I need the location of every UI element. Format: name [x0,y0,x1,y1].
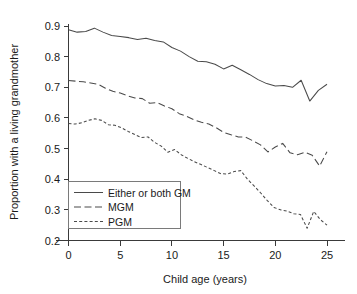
y-tick-label: 0.9 [45,20,60,32]
x-axis-ticks: 0510152025 [65,241,333,262]
y-axis-ticks: 0.20.30.40.50.60.70.80.9 [45,20,69,247]
chart-figure: 0.20.30.40.50.60.70.80.9 0510152025 Prop… [0,0,357,294]
y-tick-label: 0.5 [45,143,60,155]
y-axis-title: Proportion with a living grandmother [8,44,20,220]
y-tick-label: 0.3 [45,204,60,216]
y-tick-label: 0.7 [45,81,60,93]
x-tick-label: 10 [166,249,178,261]
x-tick-label: 25 [321,249,333,261]
y-tick-label: 0.6 [45,112,60,124]
legend-label: Either or both GM [108,187,191,199]
y-tick-label: 0.4 [45,173,60,185]
chart-legend: Either or both GMMGMPGM [69,182,191,229]
series-line-either-or-both-gm [69,28,328,101]
line-chart: 0.20.30.40.50.60.70.80.9 0510152025 Prop… [0,0,357,294]
x-tick-label: 5 [117,249,123,261]
y-tick-label: 0.8 [45,51,60,63]
y-tick-label: 0.2 [45,235,60,247]
series-line-mgm [69,81,328,166]
x-tick-label: 20 [269,249,281,261]
legend-label: MGM [108,201,134,213]
x-tick-label: 0 [65,249,71,261]
x-tick-label: 15 [217,249,229,261]
legend-label: PGM [108,216,132,228]
x-axis-title: Child age (years) [163,273,247,285]
